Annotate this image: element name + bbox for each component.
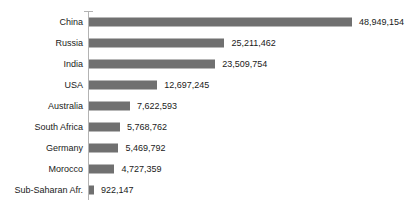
- bar-and-value: 5,469,792: [89, 144, 165, 153]
- bar: [89, 165, 114, 174]
- bar-and-value: 48,949,154: [89, 17, 404, 26]
- bar: [89, 59, 215, 68]
- category-label: Morocco: [48, 164, 83, 175]
- plot-area: China48,949,154Russia25,211,462India23,5…: [0, 0, 418, 211]
- value-label: 922,147: [101, 185, 134, 196]
- bar-row: Russia25,211,462: [0, 32, 418, 53]
- category-label: India: [63, 58, 83, 69]
- bar-and-value: 5,768,762: [89, 123, 167, 132]
- bar: [89, 123, 120, 132]
- bar-row: Germany5,469,792: [0, 138, 418, 159]
- value-label: 5,469,792: [125, 143, 165, 154]
- bar: [89, 38, 224, 47]
- value-label: 12,697,245: [164, 79, 209, 90]
- bar: [89, 80, 157, 89]
- bar-and-value: 4,727,359: [89, 165, 161, 174]
- bar-rows: China48,949,154Russia25,211,462India23,5…: [0, 11, 418, 201]
- bar-and-value: 25,211,462: [89, 38, 276, 47]
- category-label: Russia: [55, 37, 83, 48]
- bar: [89, 17, 352, 26]
- bar-row: Sub-Saharan Afr.922,147: [0, 180, 418, 201]
- bar-chart: ­ ­ ­ ­ China48,949,154Russia25,211,462I…: [0, 0, 418, 211]
- category-label: USA: [64, 79, 83, 90]
- bar-and-value: 7,622,593: [89, 101, 177, 110]
- value-label: 23,509,754: [222, 58, 267, 69]
- bar: [89, 186, 94, 195]
- category-label: Australia: [48, 100, 83, 111]
- bar: [89, 101, 130, 110]
- bar-row: China48,949,154: [0, 11, 418, 32]
- bar-row: South Africa5,768,762: [0, 116, 418, 137]
- category-label: China: [59, 16, 83, 27]
- bar-row: Australia7,622,593: [0, 95, 418, 116]
- bar-and-value: 12,697,245: [89, 80, 209, 89]
- value-label: 25,211,462: [231, 37, 275, 48]
- category-label: Sub-Saharan Afr.: [14, 185, 83, 196]
- value-label: 7,622,593: [137, 100, 177, 111]
- value-label: 5,768,762: [127, 122, 167, 133]
- value-label: 48,949,154: [359, 16, 404, 27]
- bar-and-value: 23,509,754: [89, 59, 267, 68]
- bar-row: Morocco4,727,359: [0, 159, 418, 180]
- category-label: Germany: [46, 143, 83, 154]
- bar-and-value: 922,147: [89, 186, 134, 195]
- bar-row: India23,509,754: [0, 53, 418, 74]
- bar-row: USA12,697,245: [0, 74, 418, 95]
- category-label: South Africa: [34, 122, 83, 133]
- bar: [89, 144, 118, 153]
- value-label: 4,727,359: [121, 164, 161, 175]
